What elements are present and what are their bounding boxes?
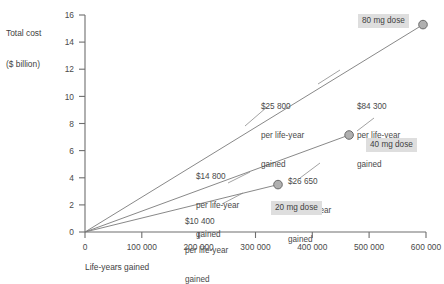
series-line-20mg	[85, 185, 278, 232]
annotation-icer-84300-line1: $84 300	[357, 102, 400, 112]
annotation-icer-84300-line3: gained	[357, 160, 400, 170]
x-tick-label-500000: 500 000	[339, 242, 399, 252]
y-tick-marks	[79, 15, 85, 232]
data-point-80mg[interactable]	[419, 20, 428, 29]
dose-label-80mg: 80 mg dose	[358, 14, 409, 28]
annotation-icer-25800-line1: $25 800	[261, 102, 304, 112]
y-tick-label-0: 0	[56, 227, 74, 237]
y-axis-title-line1: Total cost	[6, 28, 41, 38]
y-tick-label-16: 16	[56, 10, 74, 20]
x-tick-label-0: 0	[65, 242, 105, 252]
annotation-icer-26650-line3: gained	[288, 235, 331, 245]
chart-container: Total cost ($ billion) 16 14 12 10 8 6 4…	[0, 0, 444, 284]
annotation-icer-10400-line3: gained	[185, 275, 228, 284]
annotation-icer-84300: $84 300 per life-year gained	[357, 82, 400, 190]
y-tick-label-6: 6	[56, 146, 74, 156]
x-tick-label-600000: 600 000	[396, 242, 444, 252]
y-axis-title-line2: ($ billion)	[6, 59, 41, 69]
annotation-icer-25800-line2: per life-year	[261, 131, 304, 141]
annotation-icer-26650-line1: $26 650	[288, 177, 331, 187]
y-tick-label-8: 8	[56, 119, 74, 129]
annotation-icer-14800-line1: $14 800	[196, 172, 239, 182]
dose-label-40mg: 40 mg dose	[366, 138, 417, 152]
annotation-icer-10400: $10 400 per life-year gained	[185, 197, 228, 284]
y-tick-label-4: 4	[56, 173, 74, 183]
x-tick-marks	[85, 232, 426, 238]
y-tick-label-14: 14	[56, 37, 74, 47]
x-axis-title: Life-years gained	[85, 262, 149, 272]
annotation-icer-10400-line2: per life-year	[185, 246, 228, 256]
annotation-icer-10400-line1: $10 400	[185, 217, 228, 227]
x-tick-label-100000: 100 000	[112, 242, 172, 252]
y-tick-label-10: 10	[56, 92, 74, 102]
dose-label-20mg: 20 mg dose	[271, 201, 322, 215]
data-point-40mg[interactable]	[345, 131, 354, 140]
y-tick-label-12: 12	[56, 64, 74, 74]
y-axis-title: Total cost ($ billion)	[6, 8, 41, 90]
y-tick-label-2: 2	[56, 200, 74, 210]
